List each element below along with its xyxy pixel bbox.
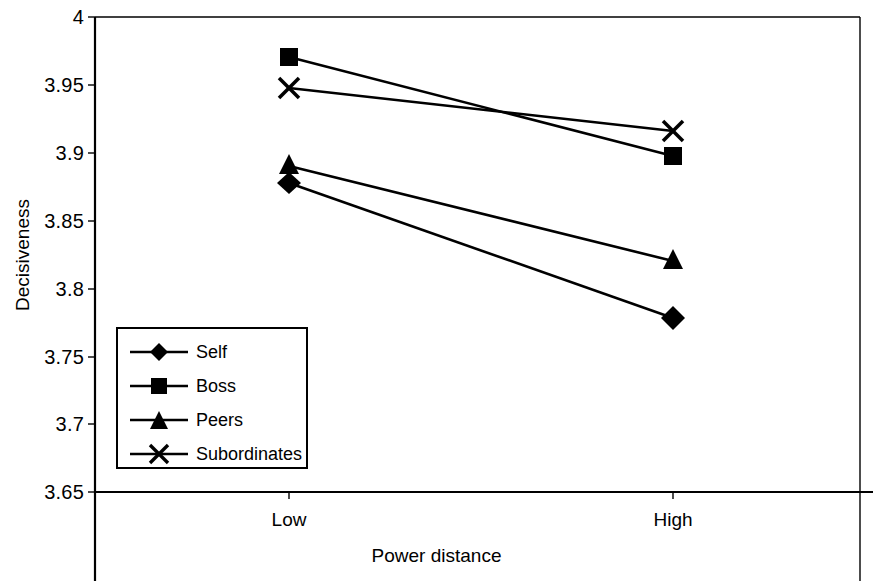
series-peers-line xyxy=(289,166,673,261)
series-self xyxy=(277,172,685,330)
x-axis-title: Power distance xyxy=(0,546,873,566)
plot-frame xyxy=(95,17,873,581)
y-axis-tick-label: 3.65 xyxy=(10,482,84,502)
legend-marker-x-icon xyxy=(128,439,190,469)
line-chart: 4 3.95 3.9 3.85 3.8 3.75 3.7 3.65 Low Hi… xyxy=(0,0,873,581)
legend-item-subordinates: Subordinates xyxy=(118,439,306,469)
y-axis-tick-label: 3.7 xyxy=(10,414,84,434)
legend-item-peers: Peers xyxy=(118,405,306,435)
series-boss-marker-low xyxy=(280,48,298,66)
series-boss xyxy=(280,48,682,165)
x-axis-tick-label-low: Low xyxy=(229,510,349,530)
series-subordinates-line xyxy=(289,88,673,131)
y-axis-title: Decisiveness xyxy=(13,145,33,365)
series-peers-marker-low xyxy=(279,154,299,174)
legend-marker-diamond-icon xyxy=(128,337,190,367)
series-self-marker-high xyxy=(661,306,685,330)
series-boss-line xyxy=(289,57,673,156)
legend-label-boss: Boss xyxy=(196,375,236,397)
legend-item-boss: Boss xyxy=(118,371,306,401)
y-axis-tick-label: 4 xyxy=(10,7,84,27)
chart-canvas xyxy=(0,0,873,581)
series-self-marker-low xyxy=(277,172,301,194)
legend-marker-square-icon xyxy=(128,371,190,401)
x-axis-tick-label-high: High xyxy=(613,510,733,530)
legend-label-peers: Peers xyxy=(196,409,243,431)
series-boss-marker-high xyxy=(664,147,682,165)
x-axis-ticks xyxy=(289,492,673,499)
legend-label-subordinates: Subordinates xyxy=(196,443,302,465)
legend-label-self: Self xyxy=(196,341,227,363)
series-subordinates xyxy=(279,78,683,141)
legend-marker-triangle-icon xyxy=(128,405,190,435)
chart-legend: Self Boss Peers Subordinates xyxy=(116,327,308,469)
legend-item-self: Self xyxy=(118,337,306,367)
series-self-line xyxy=(289,183,673,318)
y-axis-tick-label: 3.95 xyxy=(10,75,84,95)
